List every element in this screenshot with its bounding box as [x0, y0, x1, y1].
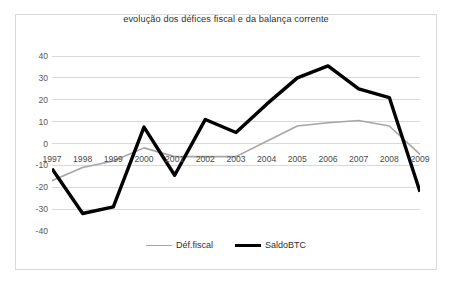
y-axis-tick-label: 20: [18, 95, 48, 105]
y-axis-tick-label: -30: [18, 204, 48, 214]
legend-item-def-fiscal: Déf.fiscal: [146, 240, 213, 250]
y-axis-tick-label: 0: [18, 139, 48, 149]
legend-label-def-fiscal: Déf.fiscal: [176, 240, 213, 250]
legend-line-icon-def-fiscal: [146, 245, 172, 246]
y-axis-labels: 403020100-10-20-30-40: [18, 56, 48, 231]
y-axis-tick-label: -40: [18, 226, 48, 236]
y-axis-tick-label: 10: [18, 117, 48, 127]
legend-item-saldobtc: SaldoBTC: [235, 240, 306, 250]
chart-title: evolução dos défices fiscal e da balança…: [0, 14, 452, 24]
y-axis-tick-label: -20: [18, 182, 48, 192]
chart-svg: [52, 56, 420, 231]
series-line-saldobtc: [52, 66, 420, 214]
y-axis-tick-label: -10: [18, 160, 48, 170]
series-line-d-f-fiscal: [52, 121, 420, 181]
y-axis-tick-label: 30: [18, 73, 48, 83]
legend-label-saldobtc: SaldoBTC: [265, 240, 306, 250]
legend-line-icon-saldobtc: [235, 244, 261, 247]
chart-container: evolução dos défices fiscal e da balança…: [0, 0, 452, 285]
chart-legend: Déf.fiscal SaldoBTC: [0, 240, 452, 250]
plot-area: [52, 56, 420, 231]
y-axis-tick-label: 40: [18, 51, 48, 61]
